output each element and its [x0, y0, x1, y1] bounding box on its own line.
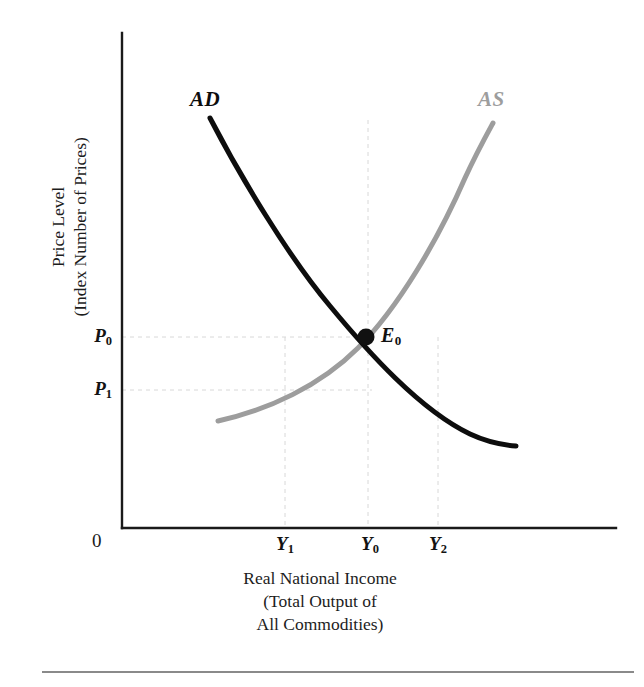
output-tick-y1-base: Y — [276, 533, 288, 554]
equilibrium-label-subscript: 0 — [395, 333, 402, 348]
as-curve — [218, 123, 493, 421]
x-axis-title-line2: (Total Output of — [185, 590, 455, 613]
price-tick-p0-base: P — [94, 325, 106, 346]
output-tick-y0: Y0 — [347, 533, 393, 556]
origin-label: 0 — [92, 530, 102, 551]
output-tick-y1: Y1 — [262, 533, 308, 556]
output-tick-y0-subscript: 0 — [373, 542, 379, 556]
output-tick-y0-base: Y — [361, 533, 373, 554]
equilibrium-label-base: E — [381, 324, 394, 346]
output-tick-y2-base: Y — [429, 533, 441, 554]
ad-as-figure: AD AS E0 P0 P1 Y1 Y0 Y2 0 Price Level (I… — [0, 0, 644, 687]
x-axis-title-line3: All Commodities) — [185, 613, 455, 636]
output-tick-y1-subscript: 1 — [288, 542, 294, 556]
price-tick-p1: P1 — [60, 378, 112, 401]
output-tick-y2-subscript: 2 — [441, 542, 447, 556]
output-tick-y2: Y2 — [415, 533, 461, 556]
equilibrium-marker — [358, 329, 375, 346]
as-curve-label: AS — [478, 88, 505, 112]
ad-curve-label: AD — [190, 88, 220, 112]
equilibrium-label: E0 — [381, 324, 401, 348]
y-axis-title-line2: (Index Number of Prices) — [70, 112, 92, 342]
y-axis-title-line1: Price Level — [48, 187, 68, 267]
price-tick-p1-base: P — [94, 378, 106, 399]
x-axis-title-line1: Real National Income — [185, 567, 455, 590]
price-tick-p1-subscript: 1 — [106, 387, 112, 401]
x-axis-title: Real National Income (Total Output of Al… — [185, 567, 455, 636]
y-axis-title: Price Level (Index Number of Prices) — [48, 112, 92, 342]
price-tick-p0-subscript: 0 — [106, 334, 112, 348]
